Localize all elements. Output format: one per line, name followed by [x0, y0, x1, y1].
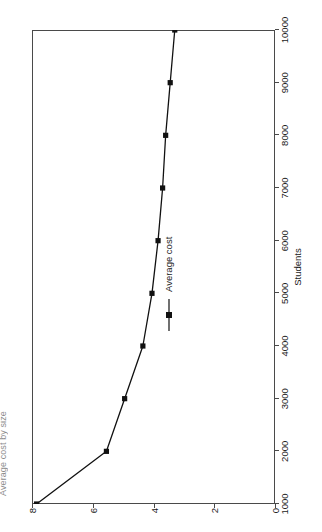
y-axis-ticks: 0 2 4 6 8: [32, 508, 275, 532]
chart-figure: Average cost by size Average cost (£ per…: [0, 0, 322, 532]
x-tick-label: 9000: [279, 63, 290, 103]
data-point: [104, 449, 109, 454]
series-polyline: [37, 30, 175, 504]
legend-label: Average cost: [163, 237, 174, 292]
y-tick-label: 4: [148, 508, 159, 528]
chart-page: Average cost by size Average cost (£ per…: [0, 0, 322, 532]
y-tick-mark: [154, 504, 155, 508]
x-tick-label: 10000: [279, 10, 290, 50]
data-point: [172, 30, 177, 33]
series-average-cost: [32, 30, 275, 504]
x-tick-label: 8000: [279, 115, 290, 155]
x-tick-label: 3000: [279, 379, 290, 419]
y-tick-mark: [93, 504, 94, 508]
y-tick-mark: [275, 504, 276, 508]
y-tick-label: 2: [209, 508, 220, 528]
data-point: [34, 501, 39, 504]
y-tick-label: 8: [27, 508, 38, 528]
data-point: [168, 80, 173, 85]
x-tick-label: 7000: [279, 168, 290, 208]
x-tick-label: 1000: [279, 484, 290, 524]
data-point: [160, 185, 165, 190]
chart-legend: Average cost: [163, 237, 174, 332]
y-tick-label: 6: [87, 508, 98, 528]
y-tick-mark: [214, 504, 215, 508]
legend-marker-icon: [164, 298, 174, 332]
data-point: [155, 238, 160, 243]
data-point: [163, 133, 168, 138]
x-tick-label: 5000: [279, 273, 290, 313]
x-axis-title: Students: [292, 30, 303, 504]
x-tick-label: 4000: [279, 326, 290, 366]
x-tick-label: 6000: [279, 221, 290, 261]
y-tick-mark: [32, 504, 33, 508]
x-tick-label: 2000: [279, 431, 290, 471]
data-point: [149, 291, 154, 296]
data-point: [140, 343, 145, 348]
chart-title: Average cost by size: [0, 411, 8, 496]
series-markers: [34, 30, 177, 504]
data-point: [122, 396, 127, 401]
